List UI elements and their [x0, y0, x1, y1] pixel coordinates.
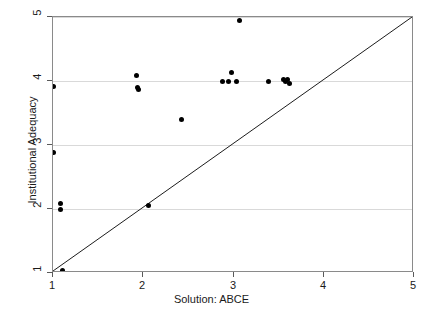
data-point: [220, 79, 225, 84]
x-tick-4: [323, 272, 324, 277]
data-point: [58, 207, 63, 212]
x-tick-3: [233, 272, 234, 277]
x-tick-label-3: 3: [230, 279, 236, 291]
x-tick-label-4: 4: [320, 279, 326, 291]
x-tick-label-5: 5: [410, 279, 416, 291]
x-tick-label-1: 1: [49, 279, 55, 291]
y-tick-label-3: 3: [31, 138, 43, 151]
data-point: [146, 203, 151, 208]
data-point: [287, 81, 292, 86]
data-point: [60, 268, 65, 271]
x-tick-5: [413, 272, 414, 277]
data-point: [229, 70, 234, 75]
data-point: [234, 79, 239, 84]
data-point: [179, 117, 184, 122]
y-tick-label-2: 2: [31, 202, 43, 215]
x-axis-title: Solution: ABCE: [0, 293, 423, 305]
plot-frame: [52, 16, 413, 272]
plot-area: [53, 17, 412, 271]
data-point: [266, 79, 271, 84]
y-tick-label-4: 4: [31, 74, 43, 87]
y-tick-label-5: 5: [31, 10, 43, 23]
data-point: [226, 79, 231, 84]
x-tick-2: [142, 272, 143, 277]
x-tick-1: [52, 272, 53, 277]
y-tick-label-1: 1: [31, 266, 43, 279]
scatter-plot-figure: Institutional Adequacy 12345 12345 Solut…: [0, 0, 423, 310]
data-point: [58, 201, 63, 206]
x-tick-label-2: 2: [139, 279, 145, 291]
identity-line: [53, 17, 412, 271]
